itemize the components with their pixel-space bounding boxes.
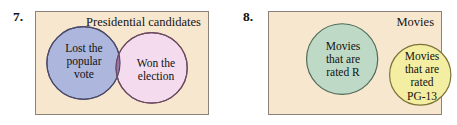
universe-box-movies: Movies Movies that are rated R Movies th… [268, 11, 442, 115]
problem-number-8: 8. [243, 9, 253, 25]
circle-movies-rated-r [307, 24, 378, 95]
venn-shapes-problem-7 [36, 12, 208, 114]
problem-number-7: 7. [13, 9, 23, 25]
circle-movies-rated-pg13 [390, 44, 451, 105]
venn-shapes-problem-8 [269, 12, 441, 114]
venn-problem-8: 8. Movies Movies that are rated R Movies… [229, 0, 457, 125]
venn-problem-7: 7. Presidential candidates Lost the popu… [0, 0, 229, 125]
universe-box-presidential-candidates: Presidential candidates Lost the popular… [35, 11, 209, 115]
